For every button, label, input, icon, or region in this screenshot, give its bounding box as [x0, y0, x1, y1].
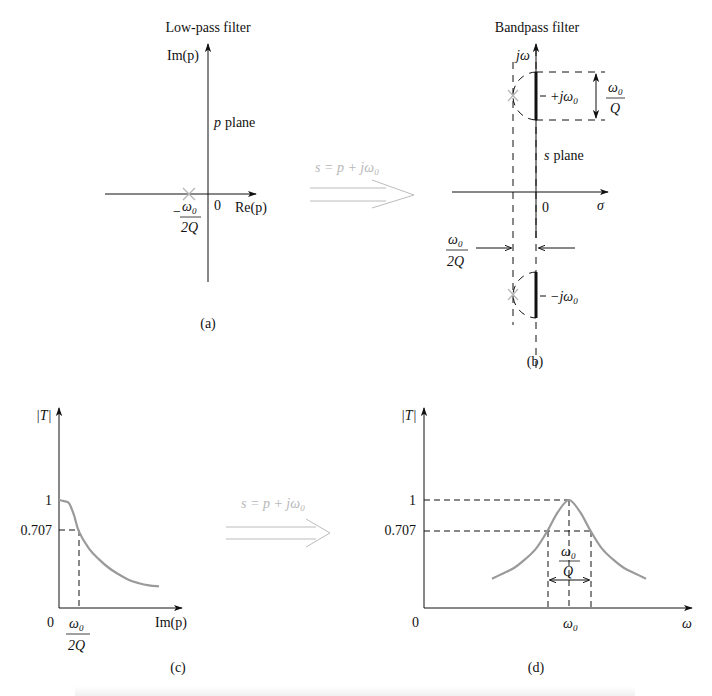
panel-b-tag: (b)	[527, 354, 544, 370]
transform-label-bottom: s = p + jω0	[241, 496, 305, 513]
pole-numerator: ω0	[182, 199, 197, 216]
sigma-axis-label: σ	[597, 198, 605, 213]
transform-label-top: s = p + jω0	[315, 160, 379, 177]
d-tick-0707: 0.707	[385, 523, 417, 538]
p-plane-label: pplane	[213, 115, 255, 130]
pole-minus-sign: −	[173, 204, 181, 219]
transform-arrow-top: s = p + jω0	[310, 160, 414, 208]
lowpass-curve	[59, 500, 159, 586]
s-plane-origin: 0	[542, 200, 549, 215]
double-arrow-icon	[310, 180, 414, 208]
panel-c: |T| Im(p) 0 1 0.707 ω0 2Q (c)	[21, 408, 188, 676]
upper-bandwidth-guides	[513, 72, 605, 318]
pole-denominator: 2Q	[181, 220, 198, 235]
d-center-label: ω0	[563, 616, 578, 633]
bandwidth-denominator: Q	[610, 101, 620, 116]
figure-caption-cropped	[75, 686, 635, 696]
d-x-axis-label: ω	[682, 616, 692, 631]
s-plane-label: splane	[544, 148, 584, 163]
c-cutoff-numerator: ω0	[69, 616, 84, 633]
im-axis-label: Im(p)	[167, 48, 199, 64]
re-axis-label: Re(p)	[235, 200, 267, 216]
c-tick-0707: 0.707	[21, 523, 53, 538]
c-tick-1: 1	[45, 493, 52, 508]
origin-label: 0	[214, 198, 221, 213]
d-bandwidth-denominator: Q	[563, 564, 573, 579]
panel-c-tag: (c)	[170, 660, 186, 676]
transform-arrow-bottom: s = p + jω0	[226, 496, 330, 547]
c-x-axis-label: Im(p)	[155, 615, 187, 631]
d-y-axis-label: |T|	[401, 408, 416, 423]
panel-a: Low-pass filter Im(p) Re(p) 0 pplane − ω…	[105, 20, 267, 332]
panel-a-tag: (a)	[200, 316, 216, 332]
c-y-axis-label: |T|	[36, 408, 51, 423]
panel-d: |T| ω 0 1 0.707 ω0 Q ω0 (d)	[385, 408, 693, 676]
panel-b: Bandpass filter jω σ 0 splane ω0 Q +jω	[446, 20, 625, 370]
upper-pole-label: +jω0	[550, 89, 578, 106]
jw-axis-label: jω	[514, 48, 530, 63]
panel-d-tag: (d)	[528, 660, 545, 676]
d-origin: 0	[412, 615, 419, 630]
d-bandwidth-numerator: ω0	[561, 544, 576, 561]
bandwidth-numerator: ω0	[608, 80, 623, 97]
panel-a-title: Low-pass filter	[165, 20, 250, 35]
offset-numerator: ω0	[448, 232, 463, 249]
figure-canvas: Low-pass filter Im(p) Re(p) 0 pplane − ω…	[0, 0, 712, 696]
lower-pole-label: −jω0	[550, 289, 578, 306]
offset-denominator: 2Q	[447, 254, 464, 269]
d-tick-1: 1	[409, 493, 416, 508]
double-arrow-icon	[226, 519, 330, 547]
c-cutoff-denominator: 2Q	[68, 638, 85, 653]
c-origin: 0	[47, 615, 54, 630]
panel-b-title: Bandpass filter	[495, 20, 580, 35]
